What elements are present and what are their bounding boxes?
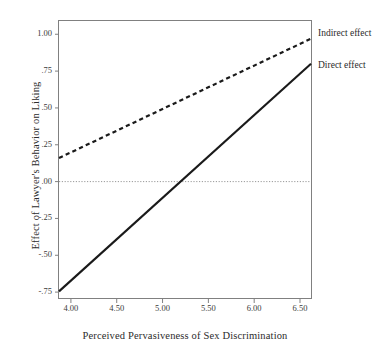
x-axis-tick-label: 6.50	[280, 303, 320, 313]
x-axis-tick-labels: 4.004.505.005.506.006.50	[0, 0, 380, 352]
x-axis-tick-label: 5.00	[143, 303, 183, 313]
x-axis-tick-label: 4.50	[97, 303, 137, 313]
series-label-direct-effect: Direct effect	[318, 60, 366, 70]
x-axis-tick-label: 6.00	[234, 303, 274, 313]
x-axis-title: Perceived Pervasiveness of Sex Discrimin…	[58, 330, 312, 341]
x-axis-tick-label: 4.00	[51, 303, 91, 313]
series-label-indirect-effect: Indirect effect	[318, 28, 371, 38]
chart-figure: Effect of Lawyer's Behavior on Liking 1.…	[0, 0, 380, 352]
x-axis-tick-label: 5.50	[188, 303, 228, 313]
